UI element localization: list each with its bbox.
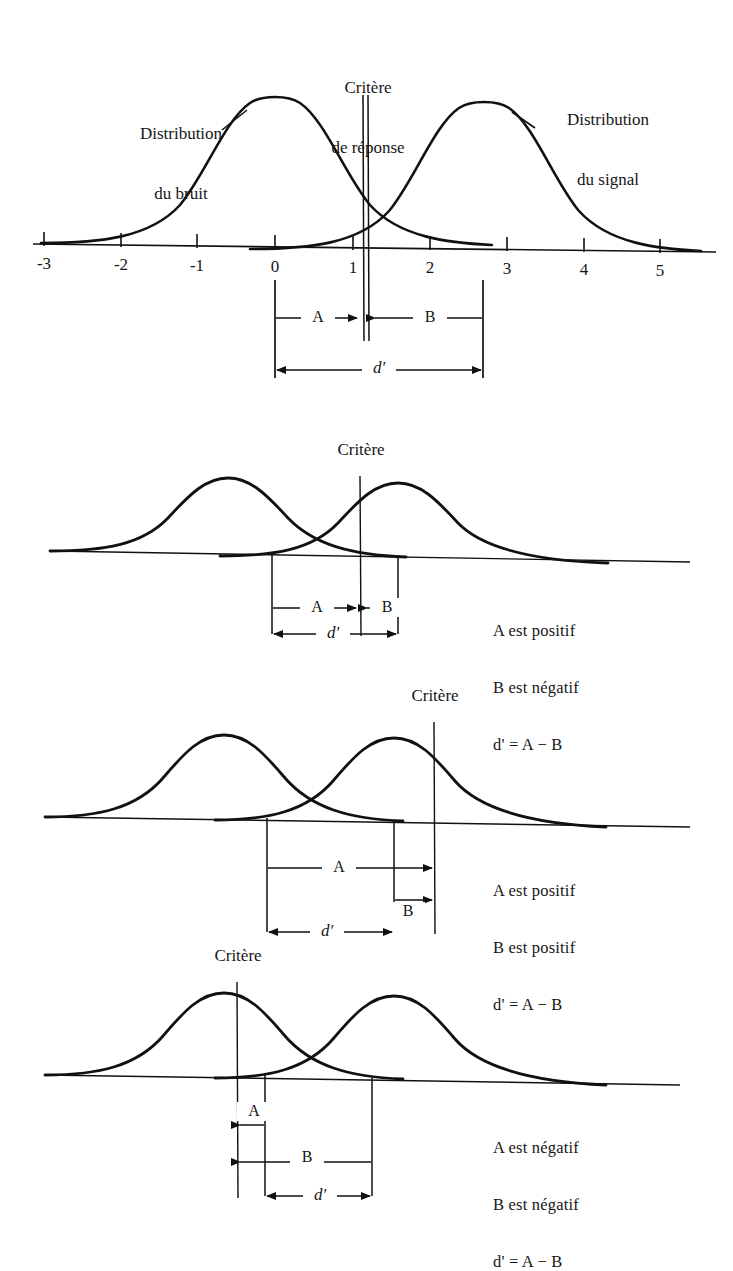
panel-1-criterion-label-line1: Critère bbox=[306, 78, 430, 98]
panel-1-tick-label-0: -3 bbox=[24, 254, 64, 274]
panel-2-signal-curve bbox=[220, 483, 608, 563]
panel-1-axis-line bbox=[33, 244, 716, 252]
panel-3-a-label: A bbox=[322, 858, 356, 877]
panel-2-notes: A est positif B est négatif d' = A − B bbox=[493, 583, 579, 792]
panel-1-a-label: A bbox=[301, 308, 335, 327]
panel-1-tick-label-4: 1 bbox=[333, 258, 373, 278]
panel-1-noise-label: Distribution du bruit bbox=[121, 84, 241, 244]
panel-1-dprime-label: d′ bbox=[362, 358, 396, 378]
panel-1-tick-label-5: 2 bbox=[410, 258, 450, 278]
panel-1-tick-label-6: 3 bbox=[487, 259, 527, 279]
panel-4-note-3: d' = A − B bbox=[493, 1252, 579, 1271]
panel-1-signal-label-line1: Distribution bbox=[548, 110, 668, 130]
panel-2-b-label: B bbox=[370, 598, 404, 617]
panel-1-signal-label-line2: du signal bbox=[548, 170, 668, 190]
panel-4-b-label: B bbox=[290, 1148, 324, 1167]
panel-4-a-label: A bbox=[237, 1102, 271, 1121]
panel-2-criterion-label: Critère bbox=[318, 440, 404, 460]
panel-4-note-2: B est négatif bbox=[493, 1195, 579, 1214]
panel-3-criterion-label: Critère bbox=[392, 686, 478, 706]
panel-3-criterion-line bbox=[434, 722, 435, 934]
panel-2-criterion-line bbox=[360, 476, 361, 636]
panel-1-tick-label-8: 5 bbox=[640, 261, 680, 281]
panel-2-note-3: d' = A − B bbox=[493, 735, 579, 754]
panel-3-dprime-label: d′ bbox=[310, 921, 344, 941]
panel-4-criterion-line bbox=[237, 982, 238, 1198]
panel-4-measure-brackets bbox=[265, 1075, 372, 1196]
panel-1-tick-label-2: -1 bbox=[177, 256, 217, 276]
panel-4-criterion-label: Critère bbox=[195, 946, 281, 966]
panel-3-notes: A est positif B est positif d' = A − B bbox=[493, 843, 575, 1052]
panel-1-noise-label-line1: Distribution bbox=[121, 124, 241, 144]
panel-2-dprime-label: d′ bbox=[316, 623, 350, 643]
panel-1-tick-label-3: 0 bbox=[255, 257, 295, 277]
panel-2-noise-curve bbox=[50, 478, 406, 557]
panel-4-noise-curve bbox=[45, 993, 403, 1079]
panel-4-note-1: A est négatif bbox=[493, 1138, 579, 1157]
panel-3-note-1: A est positif bbox=[493, 881, 575, 900]
panel-1-noise-label-line2: du bruit bbox=[121, 184, 241, 204]
panel-2-a-label: A bbox=[300, 598, 334, 617]
panel-3-note-3: d' = A − B bbox=[493, 995, 575, 1014]
panel-2-note-1: A est positif bbox=[493, 621, 579, 640]
panel-1-signal-label: Distribution du signal bbox=[548, 70, 668, 230]
panel-3-noise-curve bbox=[45, 735, 403, 821]
panel-4-graphic bbox=[45, 982, 680, 1198]
panel-1-criterion-label-line2: de réponse bbox=[306, 138, 430, 158]
panel-1-tick-label-7: 4 bbox=[564, 260, 604, 280]
panel-4-notes: A est négatif B est négatif d' = A − B bbox=[493, 1100, 579, 1271]
panel-1-b-label: B bbox=[413, 308, 447, 327]
panel-3-b-label: B bbox=[391, 902, 425, 921]
panel-2-note-2: B est négatif bbox=[493, 678, 579, 697]
panel-2-measure-brackets bbox=[272, 552, 398, 634]
panel-4-dprime-label: d′ bbox=[303, 1185, 337, 1205]
panel-1-signal-leader bbox=[512, 112, 535, 128]
panel-3-note-2: B est positif bbox=[493, 938, 575, 957]
panel-1-criterion-label: Critère de réponse bbox=[306, 38, 430, 198]
panel-2-axis-line bbox=[52, 551, 690, 562]
panel-1-tick-label-1: -2 bbox=[101, 255, 141, 275]
panel-3-graphic bbox=[45, 722, 690, 934]
